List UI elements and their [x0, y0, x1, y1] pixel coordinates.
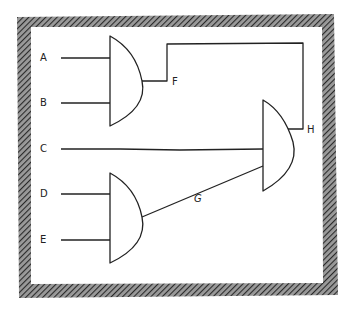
circuit-canvas	[0, 0, 353, 315]
input-label-d: D	[40, 189, 48, 199]
frame-inner	[31, 27, 322, 283]
signal-label-h: H	[307, 125, 315, 135]
input-label-b: B	[40, 98, 47, 108]
input-label-c: C	[40, 144, 47, 154]
input-label-a: A	[40, 53, 47, 63]
signal-label-g: G	[194, 194, 202, 204]
input-label-e: E	[40, 235, 46, 245]
logic-circuit-diagram: A B C D E F G H	[0, 0, 353, 315]
signal-label-f: F	[172, 77, 178, 87]
